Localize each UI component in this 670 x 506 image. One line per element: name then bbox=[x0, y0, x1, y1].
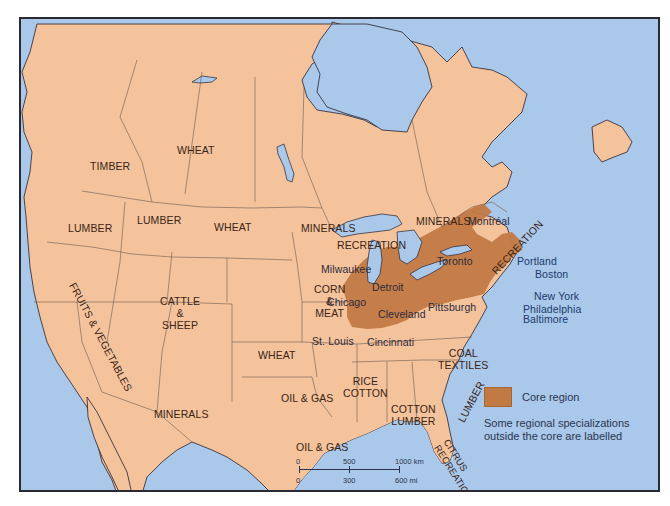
map-frame: TIMBER WHEAT LUMBER LUMBER WHEAT MINERAL… bbox=[19, 17, 660, 492]
label-lumber-west: LUMBER bbox=[68, 223, 112, 234]
label-oil-gas-tx: OIL & GAS bbox=[296, 442, 348, 453]
city-new-york: New York bbox=[534, 291, 579, 302]
label-lumber-idaho: LUMBER bbox=[137, 215, 181, 226]
city-portland: Portland bbox=[517, 256, 557, 267]
city-st-louis: St. Louis bbox=[312, 336, 354, 347]
scale-tick bbox=[399, 466, 400, 473]
city-baltimore: Baltimore bbox=[523, 314, 568, 325]
city-boston: Boston bbox=[535, 269, 568, 280]
label-line: LUMBER bbox=[391, 415, 436, 427]
label-cotton-lumber: COTTON LUMBER bbox=[391, 403, 436, 427]
label-minerals-ontario: MINERALS bbox=[416, 216, 470, 227]
city-detroit: Detroit bbox=[372, 282, 404, 293]
label-line: CORN bbox=[314, 283, 345, 295]
scale-tick bbox=[299, 466, 300, 473]
city-montreal: Montréal bbox=[468, 216, 510, 227]
scale-mi-600: 600 mi bbox=[395, 476, 418, 485]
legend-note: Some regional specializations outside th… bbox=[484, 417, 659, 443]
label-line: CATTLE bbox=[160, 295, 200, 307]
label-line: COAL bbox=[438, 347, 488, 359]
label-line: TEXTILES bbox=[438, 359, 488, 371]
label-cattle-sheep: CATTLE & SHEEP bbox=[160, 295, 200, 331]
label-line: COTTON bbox=[391, 403, 436, 415]
city-cincinnati: Cincinnati bbox=[367, 337, 414, 348]
label-minerals-mn: MINERALS bbox=[301, 223, 355, 234]
label-wheat-kansas: WHEAT bbox=[258, 350, 296, 361]
scale-mi-0: 0 bbox=[296, 476, 300, 485]
label-line: & bbox=[160, 307, 200, 319]
label-coal-textiles: COAL TEXTILES bbox=[438, 347, 488, 371]
core-region-swatch bbox=[484, 387, 512, 407]
label-minerals-sw: MINERALS bbox=[154, 409, 208, 420]
label-timber: TIMBER bbox=[90, 161, 130, 172]
label-recreation-wi: RECREATION bbox=[337, 240, 406, 251]
city-cleveland: Cleveland bbox=[378, 309, 426, 320]
label-line: COTTON bbox=[343, 387, 388, 399]
scale-bar: 0 500 1000 km 0 300 600 mi bbox=[296, 457, 456, 487]
scale-km-1000: 1000 km bbox=[395, 457, 424, 466]
label-line: SHEEP bbox=[160, 319, 200, 331]
label-line: RICE bbox=[343, 375, 388, 387]
newfoundland bbox=[592, 120, 632, 162]
city-chicago: Chicago bbox=[327, 297, 366, 308]
label-wheat-dakota: WHEAT bbox=[214, 222, 252, 233]
city-toronto: Toronto bbox=[437, 256, 473, 267]
city-pittsburgh: Pittsburgh bbox=[428, 302, 476, 313]
scale-mi-300: 300 bbox=[343, 476, 356, 485]
label-rice-cotton: RICE COTTON bbox=[343, 375, 388, 399]
label-wheat-canada: WHEAT bbox=[177, 145, 215, 156]
scale-tick bbox=[349, 466, 350, 473]
legend-core-label: Core region bbox=[522, 391, 579, 403]
scale-km-0: 0 bbox=[296, 457, 300, 466]
city-milwaukee: Milwaukee bbox=[321, 264, 372, 275]
scale-km-500: 500 bbox=[343, 457, 356, 466]
label-oil-gas-ok: OIL & GAS bbox=[281, 393, 333, 404]
label-line: MEAT bbox=[314, 307, 345, 319]
